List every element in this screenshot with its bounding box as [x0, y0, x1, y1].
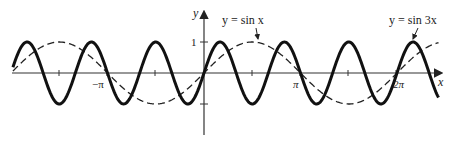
y-tick-label-one: 1 — [191, 36, 197, 48]
x-tick-label-pi: π — [293, 78, 299, 90]
sin-x-annotation-arrow — [256, 28, 258, 39]
sin-x-annotation: y = sin x — [222, 13, 264, 27]
x-tick-label-two-pi: 2π — [393, 78, 405, 90]
sin-3x-annotation: y = sin 3x — [389, 13, 437, 27]
x-tick-label-neg-pi: −π — [92, 78, 104, 90]
sine-comparison-chart: y x 1 −π π 2π y = sin x y = sin 3x — [0, 0, 455, 144]
sin-3x-annotation-arrow — [413, 28, 418, 39]
y-axis-label: y — [192, 6, 199, 20]
x-axis-label: x — [437, 75, 444, 89]
